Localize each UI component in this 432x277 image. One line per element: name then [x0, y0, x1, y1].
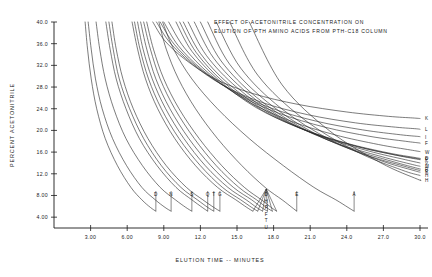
curve-label-f2: F	[425, 141, 428, 146]
curve-q	[106, 22, 208, 211]
curve-label-hlow: H	[425, 178, 429, 183]
chart-title-line-2: ELUTION OF PTH AMINO ACIDS FROM PTH-C18 …	[214, 28, 388, 34]
curve-label-h: H	[265, 199, 269, 204]
y-tick-label: 24.0	[37, 106, 49, 112]
curve-u	[147, 22, 277, 211]
curve-d	[85, 22, 156, 211]
curve-label-g: G	[218, 192, 222, 197]
x-tick-label: 15.0	[231, 234, 243, 240]
chart-svg: 4.008.0012.016.020.024.028.032.036.040.0…	[0, 0, 432, 277]
curve-d2	[132, 22, 253, 211]
curve-y0	[183, 22, 420, 160]
x-tick-label: 3.00	[85, 234, 97, 240]
curve-y	[216, 22, 420, 172]
y-tick-label: 8.00	[37, 192, 49, 198]
curve-label-f: F	[265, 212, 268, 217]
curve-label-t: T	[212, 192, 215, 197]
curve-hlow	[249, 22, 421, 181]
curve-label-d: D	[265, 192, 269, 197]
x-tick-label: 12.0	[195, 234, 207, 240]
curve-v	[188, 22, 420, 163]
curve-k	[153, 22, 420, 118]
curve-p2	[200, 22, 420, 169]
curve-label-e: E	[295, 192, 298, 197]
curve-label-q: Q	[206, 192, 210, 197]
curve-label-k: K	[425, 116, 429, 121]
curve-label-l: L	[425, 127, 428, 132]
x-tick-label: 27.0	[378, 234, 390, 240]
curve-label-w: W	[425, 150, 430, 155]
x-tick-label: 9.00	[158, 234, 170, 240]
curve-label-u: U	[265, 225, 269, 230]
curve-w	[169, 22, 420, 152]
curve-f	[141, 22, 268, 211]
curve-label-n: N	[169, 192, 173, 197]
chart-title-line-1: EFFECT OF ACETONITRILE CONCENTRATION ON	[214, 19, 364, 25]
curve-m	[194, 22, 420, 166]
y-tick-label: 20.0	[37, 127, 49, 133]
x-tick-label: 21.0	[304, 234, 316, 240]
y-tick-label: 16.0	[37, 149, 49, 155]
curve-label-s: S	[190, 192, 193, 197]
curve-t2	[144, 22, 273, 211]
curve-label-a: A	[352, 192, 356, 197]
x-tick-label-group: 3.006.009.0012.015.018.021.024.027.030.0	[85, 234, 426, 240]
chart-figure: 4.008.0012.016.020.024.028.032.036.040.0…	[0, 0, 432, 277]
curve-label-t: T	[265, 218, 268, 223]
y-tick-label: 12.0	[37, 171, 49, 177]
y-tick-label: 40.0	[37, 19, 49, 25]
curve-label-d: D	[154, 192, 158, 197]
x-axis-title: ELUTION TIME -- MINUTES	[175, 257, 264, 263]
x-tick-label: 24.0	[341, 234, 353, 240]
curve-d3	[176, 22, 420, 158]
x-tick-label: 18.0	[268, 234, 280, 240]
curve-label-p: P	[265, 205, 268, 210]
y-tick-label: 4.00	[37, 214, 49, 220]
curve-n	[88, 22, 171, 211]
y-tick-label-group: 4.008.0012.016.020.024.028.032.036.040.0	[37, 19, 49, 220]
leader-line-group	[156, 189, 354, 211]
y-axis-title: PERCENT ACETONITRILE	[9, 83, 15, 167]
y-tick-label: 36.0	[37, 41, 49, 47]
y-tick-label: 32.0	[37, 62, 49, 68]
curve-i	[160, 22, 420, 137]
curve-group	[85, 22, 421, 211]
curve-label-i: I	[425, 135, 426, 140]
x-tick-label: 30.0	[414, 234, 426, 240]
y-tick-label: 28.0	[37, 84, 49, 90]
curve-g	[112, 22, 220, 211]
x-tick-label: 6.00	[121, 234, 133, 240]
